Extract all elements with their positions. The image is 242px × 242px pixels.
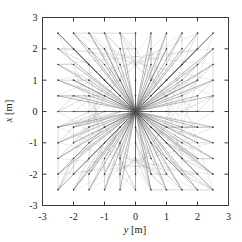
node-marker [119, 64, 121, 66]
node-marker [212, 189, 214, 191]
node-marker [88, 173, 90, 175]
node-marker [212, 95, 214, 97]
node-marker [212, 111, 214, 113]
node-marker [73, 189, 75, 191]
y-axis-title: x [m] [3, 100, 14, 123]
node-marker [135, 79, 137, 81]
node-marker [181, 79, 183, 81]
node-marker [104, 95, 106, 97]
node-marker [104, 189, 106, 191]
node-marker [212, 173, 214, 175]
node-marker [135, 158, 137, 160]
node-marker [166, 111, 168, 113]
node-marker [57, 32, 59, 34]
x-tick-label: 3 [226, 211, 231, 222]
node-marker [197, 79, 199, 81]
node-marker [57, 111, 59, 113]
node-marker [150, 142, 152, 144]
y-tick-label: -2 [29, 169, 37, 180]
node-marker [135, 126, 137, 128]
node-marker [181, 189, 183, 191]
node-marker [119, 158, 121, 160]
node-marker [88, 126, 90, 128]
node-marker [119, 95, 121, 97]
node-marker [181, 158, 183, 160]
node-marker [88, 64, 90, 66]
node-marker [88, 79, 90, 81]
node-marker [135, 95, 137, 97]
node-marker [150, 126, 152, 128]
node-marker [166, 79, 168, 81]
node-marker [166, 126, 168, 128]
node-marker [212, 64, 214, 66]
y-tick-label: -3 [29, 200, 37, 211]
node-marker [181, 64, 183, 66]
node-marker [57, 158, 59, 160]
x-tick-label: 0 [133, 211, 138, 222]
node-marker [104, 111, 106, 113]
node-marker [181, 111, 183, 113]
node-marker [73, 79, 75, 81]
node-marker [181, 95, 183, 97]
node-marker [88, 158, 90, 160]
x-tick-label: -3 [38, 211, 46, 222]
x-tick-label: 2 [195, 211, 200, 222]
node-marker [197, 95, 199, 97]
node-marker [104, 32, 106, 34]
node-marker [119, 173, 121, 175]
node-marker [166, 173, 168, 175]
y-tick-label: 1 [33, 75, 38, 86]
node-marker [150, 189, 152, 191]
node-marker [197, 64, 199, 66]
node-marker [135, 48, 137, 50]
node-marker [212, 142, 214, 144]
node-marker [88, 189, 90, 191]
node-marker [135, 32, 137, 34]
node-marker [88, 32, 90, 34]
node-marker [88, 142, 90, 144]
node-marker [104, 48, 106, 50]
node-marker [73, 126, 75, 128]
node-marker [166, 48, 168, 50]
node-marker [181, 173, 183, 175]
node-marker [212, 48, 214, 50]
node-marker [166, 189, 168, 191]
node-marker [88, 48, 90, 50]
node-marker [166, 32, 168, 34]
y-tick-label: 2 [33, 43, 38, 54]
node-marker [197, 111, 199, 113]
node-marker [166, 142, 168, 144]
node-marker [104, 158, 106, 160]
node-marker [150, 64, 152, 66]
node-marker [150, 79, 152, 81]
node-marker [166, 95, 168, 97]
node-marker [119, 189, 121, 191]
node-marker [73, 48, 75, 50]
y-tick-label: 3 [33, 12, 38, 23]
node-marker [119, 126, 121, 128]
node-marker [104, 142, 106, 144]
node-marker [73, 32, 75, 34]
node-marker [88, 111, 90, 113]
node-marker [150, 48, 152, 50]
node-marker [104, 79, 106, 81]
node-marker [212, 158, 214, 160]
node-marker [197, 48, 199, 50]
node-marker [57, 48, 59, 50]
node-marker [73, 95, 75, 97]
node-marker [119, 142, 121, 144]
node-marker [119, 111, 121, 113]
node-marker [212, 32, 214, 34]
node-marker [135, 142, 137, 144]
node-marker [181, 142, 183, 144]
node-marker [197, 158, 199, 160]
node-marker [150, 95, 152, 97]
node-marker [73, 173, 75, 175]
node-marker [57, 189, 59, 191]
node-marker [104, 126, 106, 128]
x-tick-label: -1 [100, 211, 108, 222]
node-marker [135, 189, 137, 191]
figure-panel: -3-2-10123 -3-2-10123 y [m] x [m] [0, 0, 242, 242]
node-marker [135, 173, 137, 175]
node-marker [181, 126, 183, 128]
